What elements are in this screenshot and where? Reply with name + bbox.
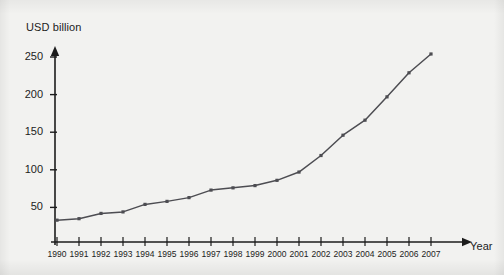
y-tick-label: 50	[13, 200, 43, 212]
data-point-markers	[55, 52, 432, 221]
line-chart-plot	[0, 0, 504, 275]
y-axis-ticks	[50, 57, 57, 207]
x-axis-title: Year	[470, 240, 493, 252]
x-tick-label: 2007	[418, 249, 444, 259]
y-axis-title: USD billion	[26, 21, 82, 33]
chart-axes	[51, 46, 472, 246]
y-tick-label: 200	[13, 88, 43, 100]
y-tick-label: 150	[13, 125, 43, 137]
y-tick-label: 250	[13, 50, 43, 62]
chart-figure: USD billion Year 50100150200250 19901991…	[0, 0, 504, 275]
data-series-line	[57, 54, 431, 220]
y-tick-label: 100	[13, 163, 43, 175]
